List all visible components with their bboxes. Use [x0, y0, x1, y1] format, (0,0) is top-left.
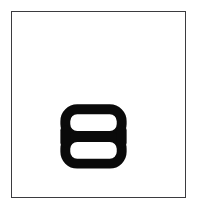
upper-counter	[65, 109, 121, 136]
image-border-frame	[11, 11, 186, 198]
frame-interior-plate	[12, 12, 185, 197]
lower-counter	[65, 137, 121, 164]
screenshot-canvas	[0, 0, 198, 216]
numeral-eight-glyph	[49, 92, 138, 177]
numeral-eight-artwork	[49, 92, 138, 177]
